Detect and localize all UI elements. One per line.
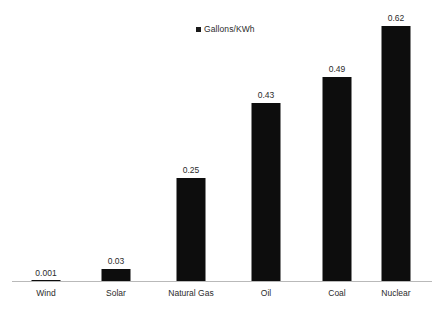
category-label-oil: Oil	[261, 289, 271, 298]
category-label-natural-gas: Natural Gas	[168, 289, 213, 298]
chart-legend: Gallons/KWh	[196, 25, 255, 34]
bar-chart: Gallons/KWh 0.001 Wind 0.03 Solar 0.25 N…	[0, 0, 440, 314]
bar-nuclear	[382, 26, 411, 281]
bar-coal	[323, 77, 352, 281]
legend-square-marker-icon	[196, 27, 201, 32]
bar-value-nuclear: 0.62	[388, 14, 405, 23]
category-label-wind: Wind	[36, 289, 55, 298]
legend-label: Gallons/KWh	[204, 25, 255, 34]
category-label-solar: Solar	[106, 289, 126, 298]
bar-value-coal: 0.49	[329, 65, 346, 74]
bar-solar	[102, 269, 131, 281]
plot-area: Gallons/KWh 0.001 Wind 0.03 Solar 0.25 N…	[0, 0, 440, 314]
x-axis-line	[12, 281, 432, 282]
bar-value-natural-gas: 0.25	[183, 166, 200, 175]
bar-natural-gas	[177, 178, 206, 281]
bar-oil	[252, 103, 281, 281]
category-label-coal: Coal	[328, 289, 345, 298]
bar-value-wind: 0.001	[35, 269, 56, 278]
bar-wind	[32, 280, 61, 281]
bar-value-oil: 0.43	[258, 91, 275, 100]
category-label-nuclear: Nuclear	[381, 289, 410, 298]
bar-value-solar: 0.03	[108, 257, 125, 266]
